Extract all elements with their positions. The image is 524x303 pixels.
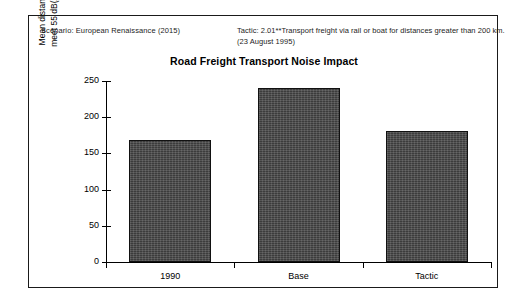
tactic-annotation: Tactic: 2.01**Transport freight via rail… xyxy=(237,26,487,47)
x-tick-mark xyxy=(363,262,364,268)
bar-1990 xyxy=(129,140,211,262)
bar-base xyxy=(258,88,340,262)
y-tick-label: 100 xyxy=(84,184,99,195)
y-axis-title: Mean distance (meters) to meet 55 dB(A) … xyxy=(37,0,61,84)
x-tick-mark xyxy=(106,262,107,268)
tactic-annotation-line-2: (23 August 1995) xyxy=(237,37,487,48)
screenshot-root: Scenario: European Renaissance (2015) Ta… xyxy=(0,0,524,303)
x-tick-mark xyxy=(491,262,492,268)
x-axis-label-tactic: Tactic xyxy=(363,271,491,282)
x-axis-label-base: Base xyxy=(234,271,362,282)
y-tick-label: 250 xyxy=(84,75,99,86)
tactic-annotation-line-1: Tactic: 2.01**Transport freight via rail… xyxy=(237,26,487,37)
bar-series xyxy=(106,81,491,262)
y-tick-label: 50 xyxy=(89,220,99,231)
x-axis-label-1990: 1990 xyxy=(106,271,234,282)
chart-title: Road Freight Transport Noise Impact xyxy=(29,55,499,67)
x-axis-line xyxy=(106,262,491,263)
y-axis-title-line-1: Mean distance (meters) to xyxy=(37,0,49,84)
y-tick-label: 150 xyxy=(84,147,99,158)
y-tick-label: 200 xyxy=(84,111,99,122)
y-axis-title-line-2: meet 55 dB(A) noise target xyxy=(49,0,61,84)
y-tick-label: 0 xyxy=(94,256,99,267)
plot-area: 050100150200250 1990BaseTactic xyxy=(106,81,491,262)
x-tick-mark xyxy=(234,262,235,268)
chart-frame: Scenario: European Renaissance (2015) Ta… xyxy=(28,15,498,288)
bar-tactic xyxy=(386,131,468,262)
scenario-annotation: Scenario: European Renaissance (2015) xyxy=(41,26,180,36)
